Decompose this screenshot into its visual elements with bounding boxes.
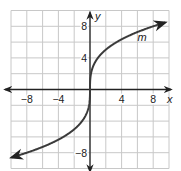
x-axis-label: x bbox=[166, 93, 173, 105]
x-tick-label: 8 bbox=[150, 93, 156, 105]
y-tick-label: 8 bbox=[81, 20, 87, 32]
y-tick-label: 4 bbox=[81, 52, 87, 64]
y-tick-label: −8 bbox=[75, 147, 87, 159]
y-axis-label: y bbox=[94, 10, 102, 22]
graph: −8−44884−8 x y m bbox=[0, 0, 181, 171]
x-tick-label: −4 bbox=[52, 93, 64, 105]
curve-label-m: m bbox=[137, 31, 146, 43]
x-tick-label: 4 bbox=[119, 93, 125, 105]
x-tick-label: −8 bbox=[21, 93, 33, 105]
